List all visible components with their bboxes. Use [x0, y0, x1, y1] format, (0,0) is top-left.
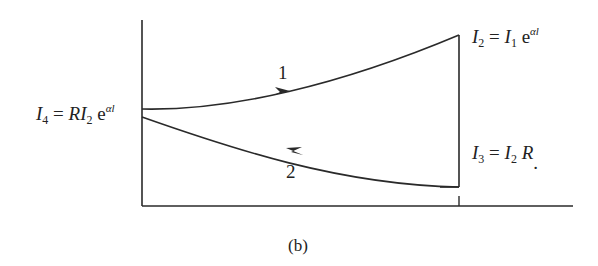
i4-equals: = — [48, 103, 68, 124]
path-1-label: 1 — [278, 63, 288, 82]
i4-exponent: αl — [106, 102, 115, 114]
path-2-label: 2 — [286, 162, 296, 181]
i4-coef: R — [69, 103, 81, 124]
i2-exp-base: e — [517, 26, 530, 47]
label-i3: I3 = I2 R. — [472, 143, 538, 165]
label-i2: I2 = I1 eαl — [472, 26, 539, 49]
label-i4: I4 = RI2 eαl — [36, 103, 115, 126]
i2-exponent: αl — [530, 25, 539, 37]
i3-coef: R — [517, 142, 533, 163]
i2-equals: = — [484, 26, 504, 47]
path-2-arrow-icon — [286, 147, 303, 155]
i3-equals: = — [484, 142, 504, 163]
i3-period: . — [533, 152, 538, 173]
path-2-curve — [142, 117, 459, 187]
figure-caption: (b) — [288, 237, 308, 254]
path-1-curve — [142, 35, 459, 109]
laser-cavity-intensity-diagram: I4 = RI2 eαl I2 = I1 eαl I3 = I2 R. 1 2 … — [0, 0, 598, 266]
i4-exp-base: e — [92, 103, 105, 124]
